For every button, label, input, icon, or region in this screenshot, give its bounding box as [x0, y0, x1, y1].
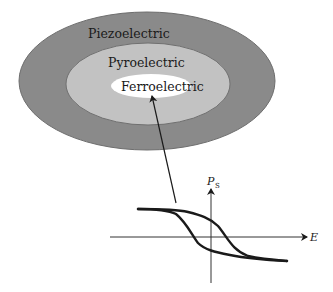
piezoelectric-label: Piezoelectric — [88, 26, 170, 41]
y-axis-label: P — [206, 175, 215, 188]
hysteresis-lower-branch — [138, 209, 287, 261]
x-axis-label: E — [309, 231, 318, 244]
ferroelectric-diagram: Piezoelectric Pyroelectric Ferroelectric… — [0, 0, 333, 292]
ferroelectric-label: Ferroelectric — [121, 79, 204, 94]
hysteresis-upper-branch — [138, 209, 287, 261]
y-axis-subscript: S — [215, 182, 220, 190]
pyroelectric-label: Pyroelectric — [108, 55, 185, 70]
